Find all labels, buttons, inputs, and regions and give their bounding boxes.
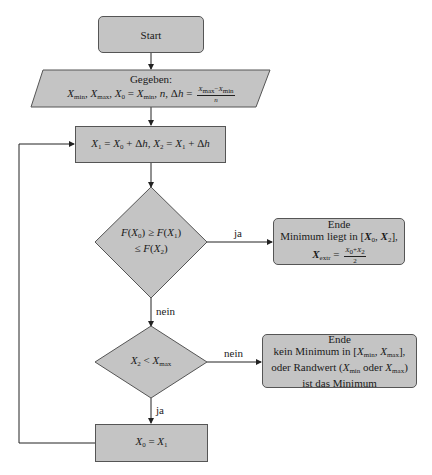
update-node: X0 = X1 [95,424,208,462]
step-formula: X1 = X0 + Δh, X2 = X1 + Δh [91,137,209,153]
end2-node: Ende kein Minimum in [Xmin, Xmax], oder … [262,334,417,388]
decision1-node: F(X0) ≥ F(X1) ≤ F(X2) [105,225,197,259]
edge-label-d2-yes: ja [156,404,164,416]
end2-line2: oder Randwert (Xmin oder Xmax) [271,361,408,377]
end2-title: Ende [328,333,351,345]
start-label: Start [141,29,162,41]
end1-line1: Minimum liegt in [X0, X2], [280,230,398,246]
end1-node: Ende Minimum liegt in [X0, X2], Xextr = … [273,218,405,265]
update-formula: X0 = X1 [135,435,167,451]
end1-title: Ende [328,218,351,230]
edge-label-d1-yes: ja [234,227,242,239]
edge-label-d2-no: nein [224,347,243,359]
decision2-formula: X2 < Xmax [131,354,172,370]
decision2-node: X2 < Xmax [110,354,192,370]
edge-label-d1-no: nein [156,305,175,317]
step-node: X1 = X0 + Δh, X2 = X1 + Δh [75,126,226,163]
decision1-line2: ≤ F(X2) [134,242,167,258]
decision1-line1: F(X0) ≥ F(X1) [121,226,181,242]
end1-line2: Xextr = X0+X22 [312,246,365,265]
end2-line3: ist das Minimum [302,377,377,389]
input-formula: Xmin, Xmax, X0 = Xmin, n, Δh = Xmax−Xmin… [67,85,234,104]
end2-line1: kein Minimum in [Xmin, Xmax], [274,345,406,361]
input-node: Gegeben: Xmin, Xmax, X0 = Xmin, n, Δh = … [40,70,262,107]
input-title: Gegeben: [130,73,172,85]
start-node: Start [98,16,204,53]
